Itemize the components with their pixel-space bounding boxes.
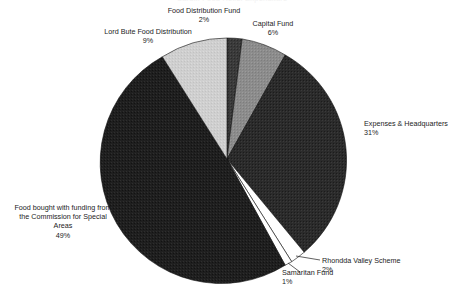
slice-label-pct: 9% [84, 36, 212, 45]
slice-label-expenses-headquarters: Expenses & Headquarters 31% [364, 119, 464, 137]
slice-label-name: Lord Bute Food Distribution [104, 27, 192, 36]
leader-line-rhondda [296, 256, 320, 260]
slice-label-name: Samaritan Fund [282, 268, 333, 277]
slice-label-samaritan-fund: Samaritan Fund 1% [282, 268, 362, 286]
slice-label-name-line3: Areas [54, 221, 73, 230]
slice-label-pct: 31% [364, 128, 464, 137]
slice-label-name: Capital Fund [253, 19, 294, 28]
slice-label-commission-special-areas: Food bought with funding from the Commis… [2, 203, 124, 240]
slice-label-name: Rhondda Valley Scheme [322, 256, 401, 265]
slice-label-name-line2: the Commission for Special [19, 212, 106, 221]
slice-label-lord-bute-food-distribution: Lord Bute Food Distribution 9% [84, 27, 212, 45]
slice-label-capital-fund: Capital Fund 6% [230, 19, 316, 37]
slice-label-name: Food Distribution Fund [168, 6, 241, 15]
slice-label-pct: 1% [282, 277, 362, 286]
pie-chart-figure: Cardiff Food Relief Expenditure [0, 0, 464, 292]
slice-label-pct: 49% [2, 231, 124, 240]
slice-label-name: Expenses & Headquarters [364, 119, 448, 128]
slice-label-pct: 6% [230, 28, 316, 37]
pie-chart-graphic [0, 0, 464, 292]
slice-label-name-line1: Food bought with funding from [14, 203, 111, 212]
